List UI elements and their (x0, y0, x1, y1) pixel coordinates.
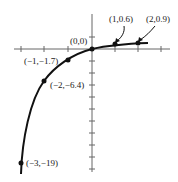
label-pm3: (−3,−19) (26, 158, 58, 168)
label-pm2: (−2,−6.4) (50, 80, 84, 90)
label-p2: (2,0.9) (146, 14, 170, 24)
label-p1: (1,0.6) (109, 14, 133, 24)
point-neg3 (19, 161, 24, 166)
arrow-2-0.9 (140, 26, 155, 40)
arrow-1-0.6 (117, 26, 124, 41)
label-p0: (0,0) (70, 36, 87, 46)
label-pm1: (−1,−1.7) (24, 56, 58, 66)
y-axis (89, 14, 95, 172)
point-0-0 (90, 47, 95, 52)
annotation-arrows (117, 26, 155, 41)
point-neg2 (42, 79, 47, 84)
chart-canvas: (0,0) (1,0.6) (2,0.9) (−1,−1.7) (−2,−6.4… (0, 0, 178, 182)
point-neg1 (66, 58, 71, 63)
